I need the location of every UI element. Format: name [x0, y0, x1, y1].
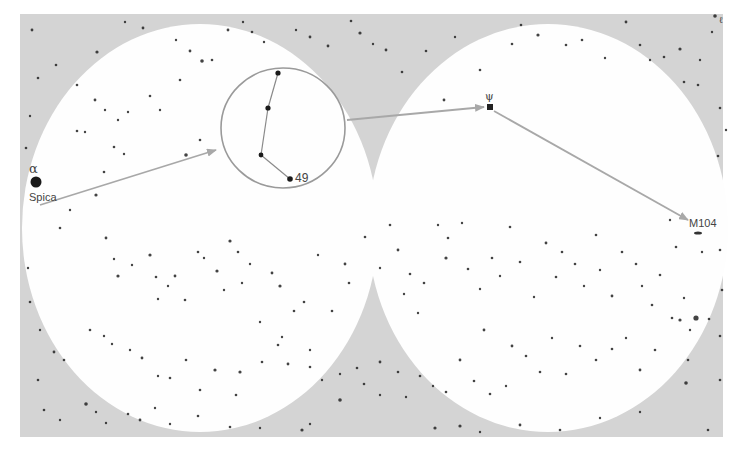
star: [725, 129, 727, 131]
star: [263, 41, 265, 43]
star: [651, 304, 654, 307]
star: [113, 258, 115, 260]
star: [105, 422, 107, 424]
star: [489, 393, 492, 396]
star: [635, 263, 638, 266]
star: [84, 131, 86, 133]
star-finder-chart: α Spica 49 ψ M104 ℓ: [0, 0, 741, 450]
star: [379, 361, 382, 364]
star: [213, 368, 216, 371]
star: [445, 391, 448, 394]
star: [499, 275, 501, 277]
star: [675, 246, 678, 249]
star: [363, 383, 366, 386]
star: [379, 267, 381, 269]
star: [559, 429, 562, 432]
star: [303, 301, 306, 304]
star: [157, 298, 159, 300]
star: [43, 409, 46, 412]
star: [199, 389, 202, 392]
star: [401, 71, 404, 74]
star: [599, 269, 601, 271]
star: [533, 296, 535, 298]
star: [149, 95, 152, 98]
star: [141, 357, 144, 360]
star: [683, 81, 686, 84]
star: [693, 315, 698, 320]
star: [309, 349, 311, 351]
star: [659, 274, 662, 277]
star: [458, 424, 461, 427]
spica: [31, 177, 42, 188]
star: [261, 361, 264, 364]
star: [309, 366, 312, 369]
star: [432, 385, 434, 387]
star: [641, 285, 643, 287]
star: [55, 64, 58, 67]
star: [169, 377, 172, 380]
star: [142, 27, 145, 30]
star: [687, 359, 690, 362]
star: [356, 367, 359, 370]
star: [379, 394, 381, 396]
star: [39, 329, 41, 331]
star: [251, 31, 254, 34]
star: [211, 59, 214, 62]
star: [293, 310, 296, 313]
star: [76, 130, 79, 133]
star: [295, 29, 297, 31]
star: [117, 119, 119, 121]
star: [123, 153, 125, 155]
corner-label: ℓ: [719, 15, 723, 25]
asterism-star-1: [275, 70, 280, 75]
star: [228, 239, 231, 242]
star: [53, 351, 56, 354]
star: [63, 359, 66, 362]
star: [707, 429, 710, 432]
star: [684, 381, 688, 385]
star: [654, 349, 657, 352]
star: [403, 293, 405, 295]
star: [701, 251, 703, 253]
star: [94, 99, 97, 102]
star: [364, 236, 367, 239]
star: [511, 345, 514, 348]
star: [719, 249, 722, 252]
star: [159, 109, 161, 111]
star: [437, 224, 439, 226]
star: [27, 267, 29, 269]
star: [697, 84, 700, 87]
star: [611, 348, 614, 351]
star: [721, 289, 724, 292]
star: [103, 335, 105, 337]
star: [37, 77, 40, 80]
star: [505, 385, 507, 387]
star: [111, 343, 113, 345]
star: [113, 146, 116, 149]
star: [423, 282, 426, 285]
star: [565, 44, 568, 47]
star: [689, 329, 691, 331]
star: [579, 345, 582, 348]
star: [29, 115, 31, 117]
star: [174, 275, 177, 278]
star: [271, 272, 274, 275]
star: [444, 256, 447, 259]
star: [215, 269, 218, 272]
star: [561, 251, 564, 254]
star: [678, 318, 681, 321]
star: [317, 254, 319, 256]
star: [433, 426, 436, 429]
star: [625, 337, 627, 339]
star: [639, 411, 641, 413]
star: [199, 139, 202, 142]
star: [551, 337, 553, 339]
star: [95, 50, 98, 53]
star: [595, 359, 598, 362]
star: [467, 268, 470, 271]
star: [197, 251, 200, 254]
star: [200, 59, 204, 63]
star-49: [287, 176, 293, 182]
star: [259, 321, 261, 323]
star: [29, 301, 32, 304]
